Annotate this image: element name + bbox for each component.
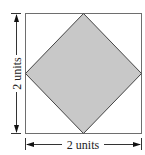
width-label: 2 units (67, 138, 100, 152)
diagram-canvas: 2 units 2 units (0, 0, 145, 155)
height-dimension: 2 units (10, 14, 24, 134)
height-label: 2 units (10, 57, 24, 90)
arrow-down-icon (14, 125, 19, 133)
width-dimension: 2 units (26, 138, 142, 152)
arrow-right-icon (133, 142, 141, 147)
arrow-up-icon (14, 14, 19, 22)
arrow-left-icon (26, 142, 34, 147)
